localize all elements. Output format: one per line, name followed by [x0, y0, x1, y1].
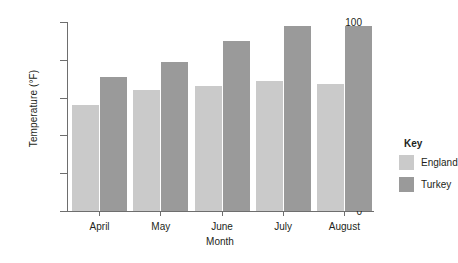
bar-turkey-august[interactable]	[345, 26, 372, 211]
x-axis-tick	[283, 211, 284, 216]
x-axis-title: Month	[67, 236, 373, 247]
bar-england-july[interactable]	[256, 81, 283, 211]
legend-item-label: England	[421, 157, 458, 168]
bar-turkey-may[interactable]	[161, 62, 188, 211]
bar-england-may[interactable]	[133, 90, 160, 211]
bar-group: May	[133, 22, 188, 211]
legend-swatch-icon	[399, 177, 414, 192]
y-axis-tick	[60, 173, 68, 174]
y-axis-tick	[60, 135, 68, 136]
y-axis-tick	[60, 60, 68, 61]
y-axis-tick	[60, 98, 68, 99]
legend-items: EnglandTurkey	[399, 155, 458, 192]
x-axis-tick	[160, 211, 161, 216]
y-axis-tick	[60, 211, 68, 212]
bar-group: August	[317, 22, 372, 211]
legend-item[interactable]: England	[399, 155, 458, 170]
legend-swatch-icon	[399, 155, 414, 170]
legend-title: Key	[404, 138, 458, 149]
x-axis-tick	[222, 211, 223, 216]
x-axis-tick	[344, 211, 345, 216]
bar-england-august[interactable]	[317, 84, 344, 211]
x-axis-tick	[99, 211, 100, 216]
y-axis-title: Temperature (°F)	[28, 29, 39, 189]
bar-turkey-april[interactable]	[100, 77, 127, 211]
bar-england-april[interactable]	[72, 105, 99, 211]
y-axis-tick	[60, 22, 68, 23]
bar-chart: Temperature (°F) 020406080100 AprilMayJu…	[0, 0, 458, 263]
bar-group: July	[256, 22, 311, 211]
bar-england-june[interactable]	[195, 86, 222, 211]
bar-turkey-june[interactable]	[223, 41, 250, 211]
bar-group: April	[72, 22, 127, 211]
legend-item[interactable]: Turkey	[399, 177, 458, 192]
legend-item-label: Turkey	[421, 179, 451, 190]
bar-group: June	[195, 22, 250, 211]
bar-turkey-july[interactable]	[284, 26, 311, 211]
plot-area: 020406080100 AprilMayJuneJulyAugust	[67, 22, 374, 212]
legend: Key EnglandTurkey	[399, 138, 458, 199]
x-axis-tick-label: August	[299, 221, 389, 232]
